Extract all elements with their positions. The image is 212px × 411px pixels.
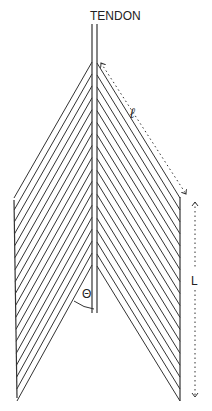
pennate-muscle-diagram: TENDON ℓ L Θ <box>0 0 212 411</box>
tendon-label: TENDON <box>90 9 141 23</box>
pennation-angle-label: Θ <box>82 287 91 301</box>
muscle-length-label: L <box>191 274 198 288</box>
left-fibers <box>14 62 92 401</box>
right-fibers <box>97 63 180 401</box>
fiber-length-label: ℓ <box>129 105 135 121</box>
tendon <box>92 24 97 313</box>
pennation-angle-arc <box>74 301 94 309</box>
